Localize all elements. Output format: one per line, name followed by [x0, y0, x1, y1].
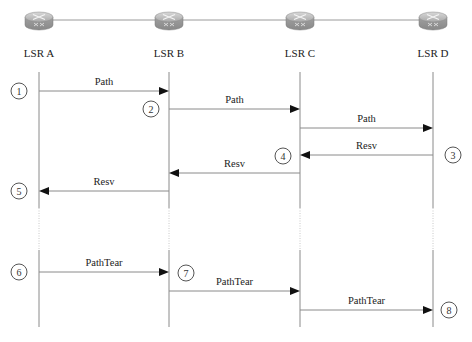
- routers: [25, 12, 447, 30]
- arrowhead-icon: [290, 287, 300, 295]
- step-number-badge: 2: [143, 101, 160, 118]
- arrowhead-icon: [300, 151, 310, 159]
- router-icon: [155, 12, 183, 30]
- node-label-b: LSR B: [154, 47, 184, 59]
- router-icon: [25, 12, 53, 30]
- message-label: Resv: [356, 140, 377, 151]
- router-icon: [419, 12, 447, 30]
- arrowhead-icon: [159, 268, 169, 276]
- arrowhead-icon: [159, 87, 169, 95]
- arrowhead-icon: [423, 124, 433, 132]
- arrowhead-icon: [423, 306, 433, 314]
- node-label-a: LSR A: [24, 47, 54, 59]
- diagram-canvas: [0, 0, 472, 342]
- arrowhead-icon: [290, 105, 300, 113]
- step-number-badge: 7: [178, 265, 195, 282]
- message-label: PathTear: [85, 257, 122, 268]
- rsvp-sequence-diagram: LSR ALSR BLSR CLSR DPathPathPathResvResv…: [0, 0, 472, 342]
- node-label-d: LSR D: [418, 47, 449, 59]
- message-label: Path: [357, 113, 376, 124]
- message-label: Resv: [224, 158, 245, 169]
- message-label: Path: [225, 94, 244, 105]
- message-label: PathTear: [216, 276, 253, 287]
- lifelines: [39, 72, 433, 327]
- node-label-c: LSR C: [285, 47, 315, 59]
- step-number-badge: 1: [11, 83, 28, 100]
- arrowhead-icon: [169, 169, 179, 177]
- step-number-badge: 5: [11, 183, 28, 200]
- step-number-badge: 8: [441, 302, 458, 319]
- step-number-badge: 6: [11, 264, 28, 281]
- message-label: Resv: [94, 176, 115, 187]
- step-number-badge: 4: [275, 148, 292, 165]
- arrowhead-icon: [39, 187, 49, 195]
- router-icon: [286, 12, 314, 30]
- message-label: PathTear: [348, 295, 385, 306]
- step-number-badge: 3: [445, 147, 462, 164]
- message-label: Path: [95, 76, 114, 87]
